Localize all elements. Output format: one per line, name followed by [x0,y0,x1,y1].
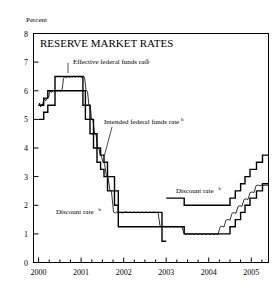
y-tick-label: 5 [24,115,28,124]
x-tick-label: 2004 [201,268,217,277]
x-tick-label: 2005 [243,268,259,277]
annotation-label: Discount rate [56,208,94,216]
x-tick-label: 2000 [31,268,47,277]
reserve-market-rates-figure: Percent RESERVE MARKET RATES 8 7 6 5 4 3… [0,0,276,291]
x-tick-label: 2001 [73,268,89,277]
y-tick-label: 3 [24,173,28,182]
y-tick-label: 7 [24,58,28,67]
y-tick-label: 6 [24,87,28,96]
y-tick-label: 8 [24,30,28,39]
x-tick-label: 2002 [116,268,132,277]
annotation-label: Effective federal funds rate [73,58,149,66]
y-tick-label: 1 [24,230,28,239]
y-tick-label: 0 [24,259,28,268]
chart-svg: Percent RESERVE MARKET RATES 8 7 6 5 4 3… [0,0,276,291]
y-tick-label: 2 [24,201,28,210]
annotation-label: Discount rate [176,187,214,195]
annotation-label: Intended federal funds rate [104,118,179,126]
y-axis-tick-labels: 8 7 6 5 4 3 2 1 0 [24,30,28,268]
x-tick-label: 2003 [158,268,174,277]
chart-title: RESERVE MARKET RATES [40,37,173,49]
y-axis-unit-label: Percent [26,16,47,24]
y-tick-label: 4 [24,144,28,153]
